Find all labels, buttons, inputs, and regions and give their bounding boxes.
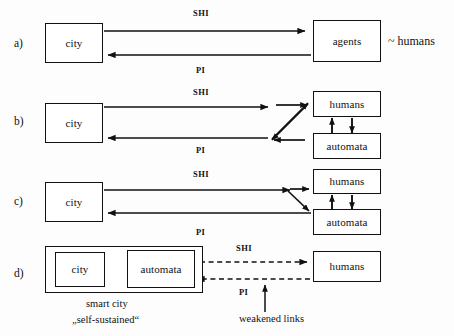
edge-label-shi-d: SHI xyxy=(236,244,252,253)
node-humans-c[interactable]: humans xyxy=(313,169,381,194)
edge-label-pi-b: PI xyxy=(196,146,205,155)
row-label-a: a) xyxy=(14,38,23,50)
edge-label-shi-a: SHI xyxy=(193,9,209,18)
edge-label-pi-a: PI xyxy=(196,66,205,75)
edge-label-shi-c: SHI xyxy=(193,170,209,179)
edge-label-shi-b: SHI xyxy=(193,88,209,97)
node-humans-b[interactable]: humans xyxy=(313,91,381,117)
edge-label-pi-d: PI xyxy=(239,288,248,297)
figure-canvas: a) b) c) d) city agents SHI PI ~ humans … xyxy=(0,0,454,336)
row-a-arrows xyxy=(104,31,311,55)
node-city-d[interactable]: city xyxy=(55,252,105,287)
row-label-b: b) xyxy=(14,116,24,128)
group-caption-line2: „self-sustained“ xyxy=(72,315,139,326)
node-city-b[interactable]: city xyxy=(45,103,103,143)
node-automata-d[interactable]: automata xyxy=(127,250,195,288)
node-automata-b[interactable]: automata xyxy=(313,133,381,159)
row-label-c: c) xyxy=(14,196,23,208)
node-city-a[interactable]: city xyxy=(45,23,103,63)
row-label-d: d) xyxy=(14,268,24,280)
node-humans-d[interactable]: humans xyxy=(313,251,381,282)
callout-weakened-links: weakened links xyxy=(239,314,304,325)
annotation-approx-humans: ~ humans xyxy=(388,35,435,47)
edge-label-pi-c: PI xyxy=(196,228,205,237)
node-agents-a[interactable]: agents xyxy=(313,20,381,62)
node-automata-c[interactable]: automata xyxy=(313,209,381,235)
node-city-c[interactable]: city xyxy=(45,182,103,222)
group-caption-line1: smart city xyxy=(86,299,128,310)
